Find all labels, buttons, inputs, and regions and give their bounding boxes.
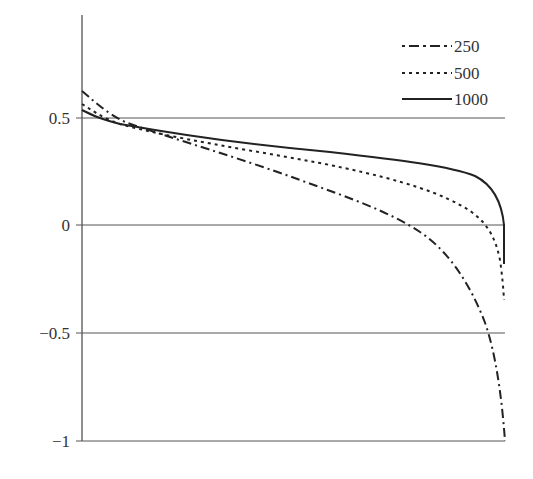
y-tick-label: 0 (62, 216, 71, 235)
y-tick-label: 0.5 (49, 109, 70, 128)
series-1000-line (82, 110, 504, 264)
legend-label-1000: 1000 (454, 90, 488, 109)
legend: 250 500 1000 (402, 37, 488, 109)
legend-label-500: 500 (454, 64, 480, 83)
line-chart: 0.5 0 −0.5 −1 250 500 1000 (0, 0, 533, 479)
legend-label-250: 250 (454, 37, 480, 56)
y-tick-label: −0.5 (39, 324, 70, 343)
y-tick-label: −1 (52, 432, 70, 451)
series-250-line (82, 91, 505, 441)
series-500-line (82, 104, 504, 300)
